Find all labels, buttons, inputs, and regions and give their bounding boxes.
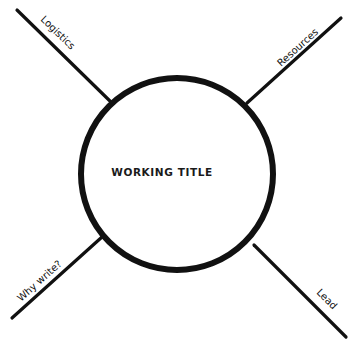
spoke-line-lead — [254, 245, 346, 337]
spoke-line-why-write — [12, 237, 102, 318]
spoke-label-logistics: Logistics — [39, 14, 78, 52]
spoke-label-resources: Resources — [275, 26, 320, 68]
center-title: WORKING TITLE — [111, 166, 213, 178]
spoke-line-resources — [247, 18, 341, 103]
spoke-label-why-write: Why write? — [15, 258, 64, 303]
spider-diagram: WORKING TITLE Logistics Resources Why wr… — [0, 0, 359, 346]
spoke-line-logistics — [17, 10, 112, 103]
